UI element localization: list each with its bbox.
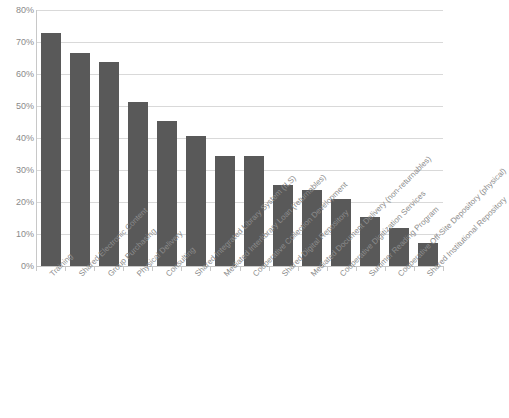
x-axis-tick-mark	[65, 267, 66, 271]
x-axis-tick-mark	[94, 267, 95, 271]
y-axis-tick-labels: 0%10%20%30%40%50%60%70%80%	[0, 0, 34, 280]
x-axis-tick-mark	[181, 267, 182, 271]
x-axis-tick-mark	[385, 267, 386, 271]
bar[interactable]	[41, 33, 61, 266]
x-axis-tick-mark	[152, 267, 153, 271]
x-axis-category-labels: TrainingShared Electronic ContentGroup P…	[36, 272, 461, 418]
y-axis-tick-label: 80%	[2, 6, 34, 15]
x-axis-tick-mark	[443, 267, 444, 271]
y-axis-tick-label: 60%	[2, 70, 34, 79]
bar-slot	[36, 10, 65, 266]
bar[interactable]	[70, 53, 90, 266]
y-axis-tick-label: 50%	[2, 102, 34, 111]
x-axis-tick-mark	[36, 267, 37, 271]
x-axis-tick-mark	[210, 267, 211, 271]
y-axis-tick-label: 20%	[2, 198, 34, 207]
bar-slot	[65, 10, 94, 266]
x-axis-tick-mark	[123, 267, 124, 271]
bar-slot	[94, 10, 123, 266]
y-axis-tick-label: 0%	[2, 262, 34, 271]
x-axis-tick-mark	[356, 267, 357, 271]
y-axis-tick-label: 40%	[2, 134, 34, 143]
bar-slot	[152, 10, 181, 266]
bar-slot	[210, 10, 239, 266]
x-axis-tick-mark	[298, 267, 299, 271]
bar-slot	[181, 10, 210, 266]
y-axis-tick-label: 10%	[2, 230, 34, 239]
x-axis-tick-mark	[269, 267, 270, 271]
y-axis-tick-label: 70%	[2, 38, 34, 47]
x-axis-tick-mark	[240, 267, 241, 271]
x-axis-tick-mark	[327, 267, 328, 271]
x-axis-tick-mark	[414, 267, 415, 271]
y-axis-tick-label: 30%	[2, 166, 34, 175]
